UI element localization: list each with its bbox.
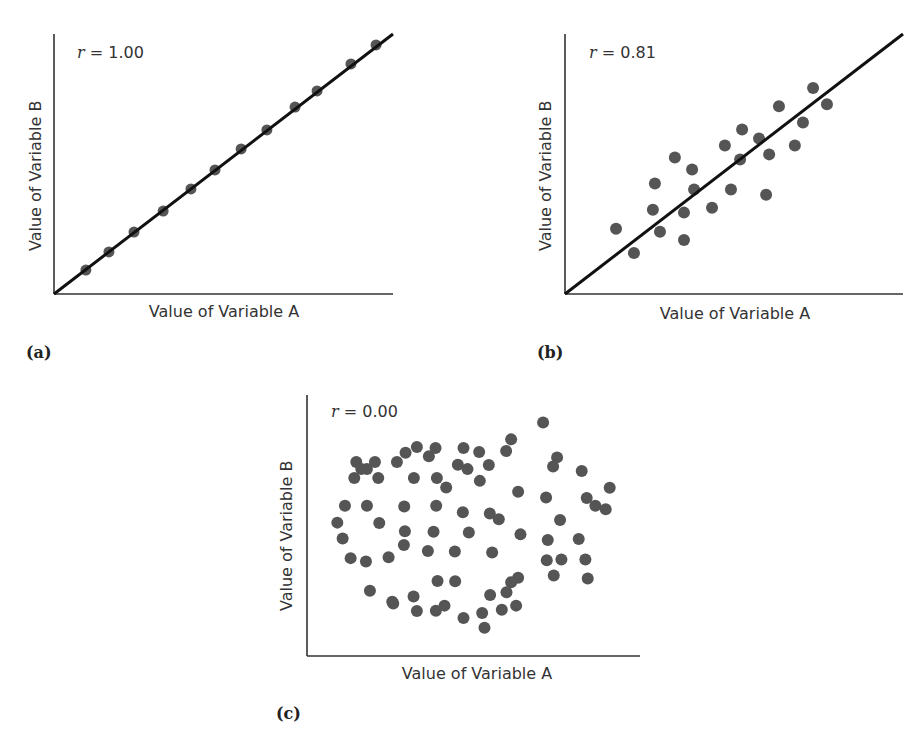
data-point: [339, 500, 351, 512]
data-point: [540, 492, 552, 504]
plot-c: [0, 0, 921, 745]
data-point: [462, 463, 474, 475]
data-point: [361, 500, 373, 512]
data-point: [579, 553, 591, 565]
data-point: [337, 533, 349, 545]
data-point: [576, 465, 588, 477]
data-point: [449, 546, 461, 558]
data-point: [555, 553, 567, 565]
data-point: [486, 546, 498, 558]
data-point: [408, 590, 420, 602]
data-point: [476, 607, 488, 619]
data-point: [510, 600, 522, 612]
data-point: [554, 514, 566, 526]
data-point: [473, 446, 485, 458]
data-point: [541, 554, 553, 566]
data-point: [348, 472, 360, 484]
panel-c: r = 0.00 Value of Variable B Value of Va…: [0, 0, 921, 745]
data-point: [430, 500, 442, 512]
data-point: [512, 486, 524, 498]
x-axis-label: Value of Variable A: [307, 664, 647, 683]
data-point: [360, 556, 372, 568]
data-point: [493, 513, 505, 525]
data-point: [604, 482, 616, 494]
data-point: [331, 517, 343, 529]
data-point: [372, 472, 384, 484]
data-point: [483, 459, 495, 471]
data-point: [547, 461, 559, 473]
data-point: [364, 585, 376, 597]
data-point: [398, 539, 410, 551]
data-point: [458, 442, 470, 454]
data-point: [432, 575, 444, 587]
data-point: [387, 598, 399, 610]
data-point: [423, 450, 435, 462]
data-point: [430, 605, 442, 617]
data-point: [383, 551, 395, 563]
data-point: [449, 575, 461, 587]
data-point: [400, 447, 412, 459]
data-point: [582, 572, 594, 584]
data-point: [411, 441, 423, 453]
data-point: [548, 570, 560, 582]
data-point: [500, 445, 512, 457]
panel-tag: (c): [276, 704, 301, 723]
data-point: [457, 506, 469, 518]
data-point: [422, 545, 434, 557]
data-point: [474, 475, 486, 487]
data-point: [361, 463, 373, 475]
data-point: [391, 456, 403, 468]
data-point: [484, 589, 496, 601]
data-point: [440, 481, 452, 493]
data-point: [463, 527, 475, 539]
data-point: [500, 586, 512, 598]
data-point: [408, 472, 420, 484]
data-point: [428, 526, 440, 538]
data-point: [478, 622, 490, 634]
data-point: [537, 416, 549, 428]
data-point: [398, 500, 410, 512]
data-point: [458, 612, 470, 624]
y-axis-label: Value of Variable B: [277, 461, 296, 611]
r-value-label: r = 0.00: [331, 402, 398, 421]
data-point: [505, 433, 517, 445]
data-point: [431, 472, 443, 484]
data-point: [373, 517, 385, 529]
data-point: [411, 605, 423, 617]
data-point: [573, 533, 585, 545]
data-point: [514, 528, 526, 540]
data-point: [399, 525, 411, 537]
data-point: [345, 552, 357, 564]
data-point: [600, 503, 612, 515]
data-point: [496, 604, 508, 616]
data-point: [542, 534, 554, 546]
data-point: [589, 500, 601, 512]
